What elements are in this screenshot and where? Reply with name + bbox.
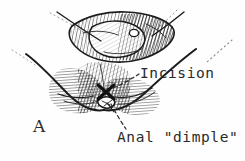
upper-aperture-highlight (129, 29, 138, 36)
label-anal-dimple: Anal "dimple" (117, 130, 238, 145)
figure-panel-label: A (33, 118, 45, 135)
figure-container: Incision Anal "dimple" A (0, 0, 245, 161)
label-incision: Incision (140, 66, 215, 81)
